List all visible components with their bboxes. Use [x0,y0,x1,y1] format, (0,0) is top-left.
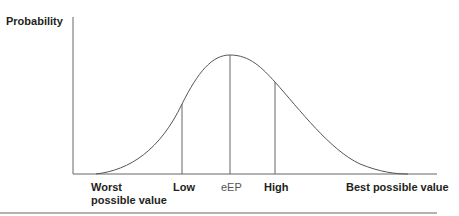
distribution-curve [96,55,408,174]
best-label: Best possible value [346,181,449,194]
y-axis-label: Probability [6,15,63,28]
eep-label: eEP [221,181,242,194]
low-label: Low [173,181,195,194]
worst-label-line1: Worst [91,181,122,194]
high-label: High [264,181,288,194]
worst-label-line2: possible value [91,194,167,207]
